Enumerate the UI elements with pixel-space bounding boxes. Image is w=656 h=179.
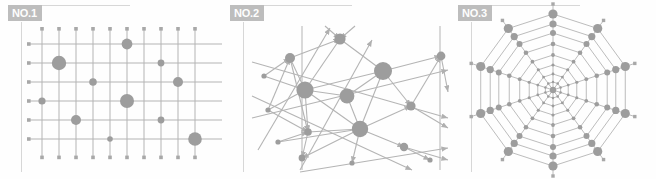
web-node [496,69,502,75]
web-node [594,102,599,107]
web-hub-node [550,87,556,93]
web-node [476,109,485,118]
web-spoke-tip [602,158,605,161]
web-node [551,63,554,66]
web-spoke-tip [633,62,636,65]
web-node [504,147,513,156]
web-node [517,41,523,47]
web-node [588,33,595,40]
web-node [476,62,485,71]
web-node [524,125,529,130]
web-spoke-tip [470,115,473,118]
web-node [511,33,518,40]
web-node [507,73,512,78]
web-node [547,95,549,97]
web-node [584,77,588,81]
web-node [531,60,535,64]
web-node [561,76,564,79]
web-spoke-tip [633,115,636,118]
web-node [518,99,522,103]
web-node [549,152,556,159]
web-node [566,109,569,112]
panel-no-1-label: NO.1 [8,5,42,21]
web-node [542,76,545,79]
web-node [572,116,576,120]
web-node [561,102,564,105]
web-node [548,9,557,18]
web-node [487,107,494,114]
web-node [593,147,602,156]
web-node [511,140,518,147]
web-spoke-tip [470,62,473,65]
web-node [594,73,599,78]
web-node [528,81,531,84]
web-spoke-tip [551,174,554,177]
spider-web-layer [470,2,637,177]
web-node [604,105,610,111]
web-spoke-tip [501,19,504,22]
web-node [566,68,569,71]
web-node [593,24,602,33]
web-node [567,94,570,97]
web-node [548,161,557,170]
web-node [557,95,559,97]
web-node [584,99,588,103]
web-node [504,24,513,33]
panel-no-2-label: NO.2 [230,5,264,21]
web-spoke-tip [501,158,504,161]
web-node [575,81,578,84]
web-node [551,113,554,116]
web-node [487,66,494,73]
web-node [531,116,535,120]
web-node [578,125,583,130]
web-node [542,102,545,105]
panel-no-3-label: NO.3 [458,5,492,21]
web-node [604,69,610,75]
web-node [552,97,554,99]
web-node [559,86,561,88]
web-node [507,102,512,107]
web-node [559,91,561,93]
web-node [584,133,590,139]
web-node [547,82,549,84]
web-node [567,84,570,87]
web-node [518,77,522,81]
web-node [621,62,630,71]
web-node [552,105,555,108]
web-node [612,66,619,73]
web-node [536,94,539,97]
web-node [496,105,502,111]
web-node [612,107,619,114]
web-node [517,133,523,139]
web-node [552,73,555,76]
web-node [528,96,531,99]
web-node [524,50,529,55]
web-node [537,68,540,71]
web-node [621,109,630,118]
web-spoke-tip [551,2,554,5]
web-node [551,42,556,47]
web-node [536,84,539,87]
web-node [551,123,555,127]
web-node [572,60,576,64]
web-node [584,41,590,47]
web-node [551,134,556,139]
web-node [575,96,578,99]
panel-no-3-diagram [0,0,656,179]
web-node [578,50,583,55]
network-topology-figure: NO.1 [0,0,656,179]
web-node [537,109,540,112]
web-node [588,140,595,147]
web-node [551,53,555,57]
web-node [549,20,556,27]
web-node [544,91,546,93]
web-node [557,82,559,84]
panel-no-3: NO.3 [450,0,656,179]
web-node [550,144,556,150]
web-node [550,30,556,36]
panel-no-3-header-rule [458,6,580,173]
web-node [552,81,554,83]
web-node [544,86,546,88]
web-spoke-tip [602,19,605,22]
